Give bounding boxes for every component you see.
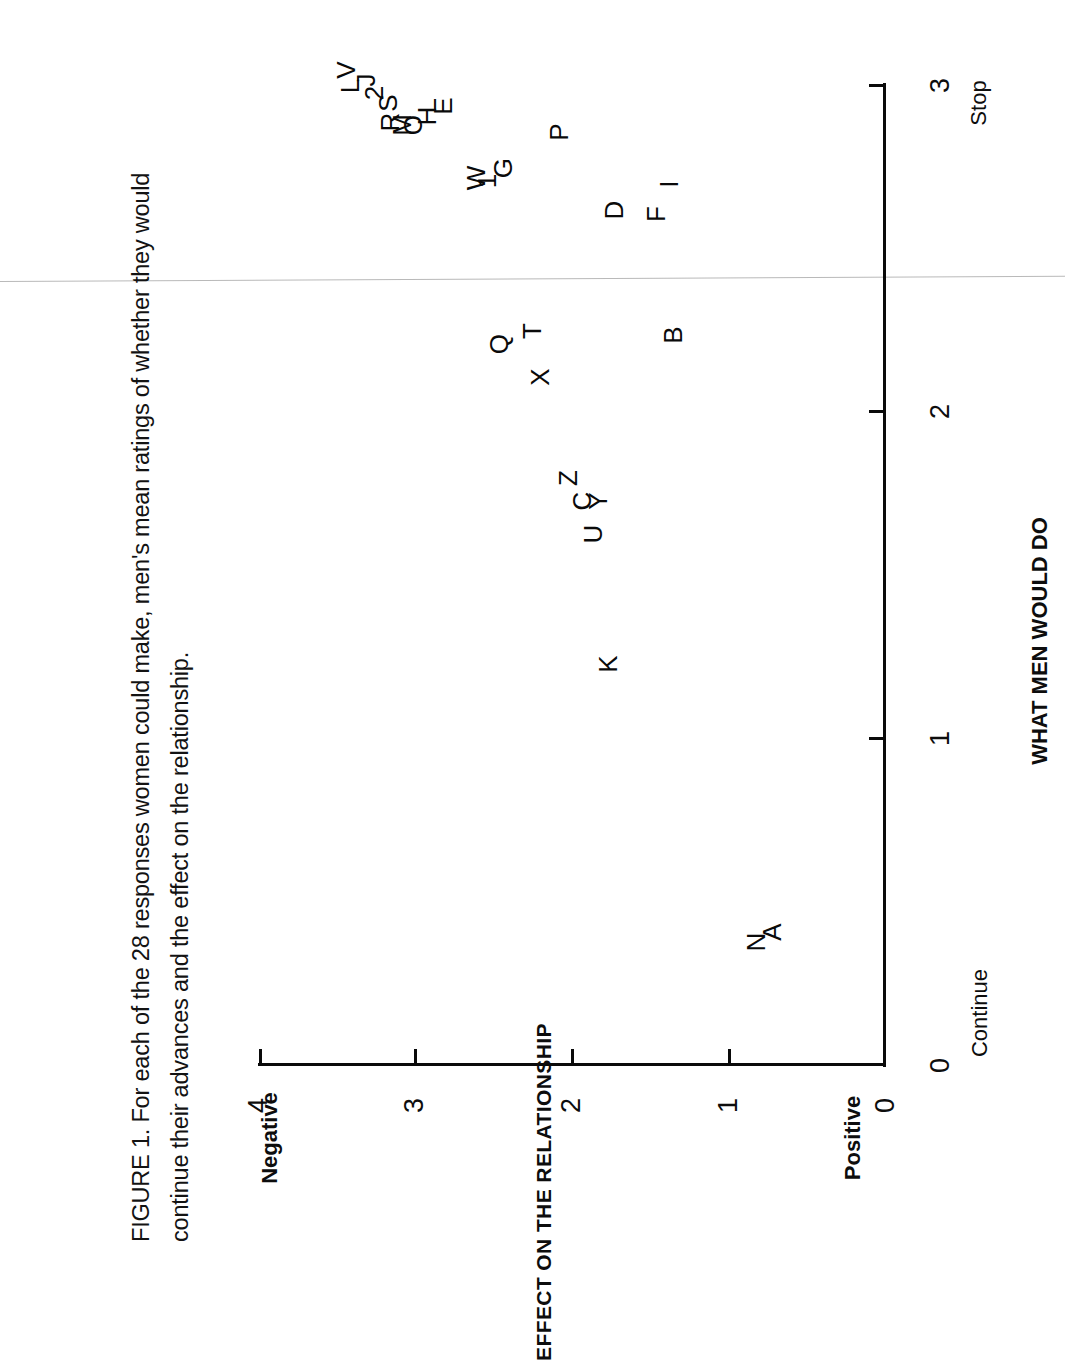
scatter-point-T: T (519, 318, 545, 344)
x-axis-tick-1 (869, 737, 884, 740)
x-axis-tick-2 (869, 410, 884, 413)
y-tick-label-1: 1 (713, 1091, 744, 1121)
x-axis-tick-3 (869, 84, 884, 87)
scatter-point-K: K (595, 651, 621, 677)
scatter-point-Q: Q (486, 331, 512, 357)
x-tick-label-3: 3 (925, 71, 956, 101)
y-axis-title: EFFECT ON THE RELATIONSHIP (532, 992, 556, 1364)
y-tick-label-0: 0 (870, 1091, 901, 1121)
x-axis-line (883, 83, 886, 1067)
x-tick-label-1: 1 (925, 724, 956, 754)
x-axis-high-label-stop: Stop (966, 68, 992, 138)
scatter-point-Y: Y (585, 488, 611, 514)
y-tick-label-2: 2 (556, 1091, 587, 1121)
scan-artifact-line (0, 276, 1065, 282)
y-axis-tick-1 (728, 1049, 731, 1064)
x-axis-low-label-continue: Continue (967, 963, 993, 1063)
scatter-point-Z: Z (555, 465, 581, 491)
scatter-point-V: V (333, 57, 359, 83)
x-axis-title: WHAT MEN WOULD DO (1027, 481, 1053, 801)
scatter-point-F: F (643, 201, 669, 227)
y-axis-low-label-positive: Positive (840, 1083, 866, 1193)
y-axis-tick-4 (259, 1049, 262, 1064)
scatter-point-U: U (580, 521, 606, 547)
y-axis-high-label-negative: Negative (257, 1073, 283, 1203)
x-tick-label-2: 2 (925, 397, 956, 427)
x-tick-label-0: 0 (925, 1051, 956, 1081)
scatter-point-I: I (656, 171, 682, 197)
scatter-point-X: X (527, 364, 553, 390)
y-axis-tick-2 (571, 1049, 574, 1064)
scatter-point-D: D (601, 197, 627, 223)
figure-caption-line-1: FIGURE 1. For each of the 28 responses w… (128, 173, 155, 1242)
scatter-point-P: P (546, 119, 572, 145)
scatter-point-W: W (463, 165, 489, 191)
scatter-point-N: N (743, 929, 769, 955)
y-axis-tick-3 (414, 1049, 417, 1064)
figure-caption-line-2: continue their advances and the effect o… (167, 652, 194, 1242)
scatter-point-B: B (660, 322, 686, 348)
y-tick-label-3: 3 (399, 1091, 430, 1121)
